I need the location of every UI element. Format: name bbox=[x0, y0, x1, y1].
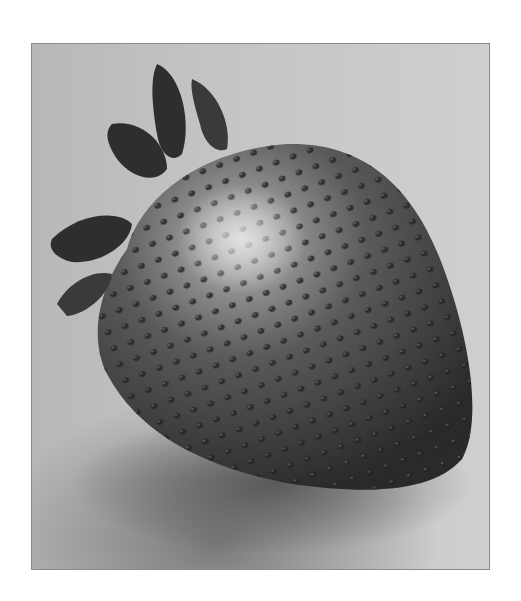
berry-highlight bbox=[177, 184, 307, 294]
strawberry-photo bbox=[32, 44, 489, 569]
photo-frame bbox=[31, 43, 490, 570]
